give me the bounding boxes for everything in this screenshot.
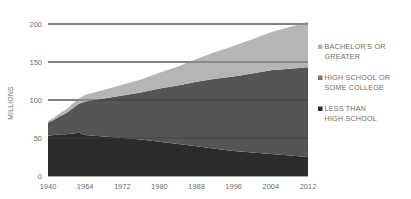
- y-tick-label: 200: [29, 20, 42, 29]
- legend-label: HIGH SCHOOL OR: [325, 73, 391, 82]
- legend-swatch: [318, 45, 323, 50]
- y-axis-label: MILLIONS: [7, 86, 14, 120]
- y-axis-title-text: MILLIONS: [7, 86, 14, 120]
- chart-legend: BACHELOR'S ORGREATERHIGH SCHOOL ORSOME C…: [318, 42, 390, 123]
- x-tick-label: 1996: [225, 182, 242, 191]
- y-tick-label: 150: [29, 58, 42, 67]
- legend-label: HIGH SCHOOL: [325, 114, 378, 123]
- area-series-group: [48, 22, 308, 176]
- legend-label: BACHELOR'S OR: [325, 42, 386, 51]
- y-tick-label: 0: [38, 172, 42, 181]
- legend-label: SOME COLLEGE: [325, 83, 385, 92]
- stacked-area-chart: MILLIONS 050100150200 194019641972198019…: [0, 0, 411, 199]
- legend-swatch: [318, 76, 323, 81]
- y-tick-label: 100: [29, 96, 42, 105]
- chart-canvas: MILLIONS 050100150200 194019641972198019…: [0, 0, 411, 199]
- x-tick-label: 1972: [114, 182, 131, 191]
- y-tick-label: 50: [34, 134, 42, 143]
- x-tick-label: 1940: [40, 182, 57, 191]
- x-tick-label: 1980: [151, 182, 168, 191]
- legend-swatch: [318, 107, 323, 112]
- y-tick-labels: 050100150200: [29, 20, 42, 181]
- x-tick-label: 2012: [300, 182, 317, 191]
- x-tick-label: 1964: [77, 182, 94, 191]
- x-tick-label: 2004: [263, 182, 280, 191]
- legend-label: GREATER: [325, 52, 361, 61]
- legend-label: LESS THAN: [325, 104, 367, 113]
- x-tick-labels: 19401964197219801988199620042012: [40, 182, 317, 191]
- x-tick-label: 1988: [188, 182, 205, 191]
